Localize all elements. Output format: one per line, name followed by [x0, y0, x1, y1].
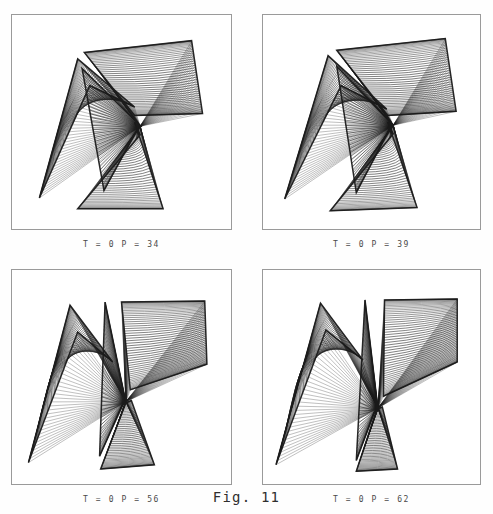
- panel-caption-2: T = 0 P = 39: [262, 240, 481, 249]
- plot-canvas-4: [263, 270, 480, 484]
- plot-canvas-3: [12, 270, 231, 484]
- panel-caption-1: T = 0 P = 34: [11, 240, 232, 249]
- plot-panel-3: [11, 269, 232, 485]
- plot-panel-2: [262, 14, 481, 230]
- plot-canvas-1: [12, 15, 231, 229]
- figure-label: Fig. 11: [0, 489, 493, 505]
- running-head: A F T E R B R E A K I N G: [0, 0, 493, 1]
- plot-panel-4: [262, 269, 481, 485]
- plot-canvas-2: [263, 15, 480, 229]
- figure-page: A F T E R B R E A K I N G T = 0 P = 34 T…: [0, 0, 493, 514]
- plot-panel-1: [11, 14, 232, 230]
